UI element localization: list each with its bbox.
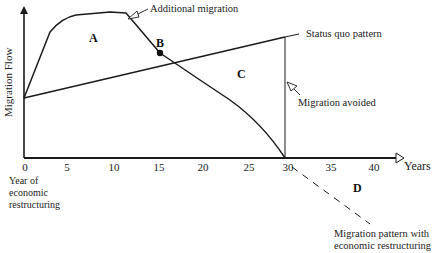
origin-note-line2: economic [9,187,48,199]
origin-note-line1: Year of [9,175,38,187]
x-tick-30: 30 [283,161,294,173]
x-tick-15: 15 [154,161,165,173]
restructuring-pattern-label-line2: economic restructuring [334,240,431,252]
y-axis-label: Migration Flow [2,48,14,117]
x-tick-10: 10 [109,161,120,173]
region-b-label: B [156,36,164,51]
x-tick-40: 40 [369,161,380,173]
additional-migration-label: Additional migration [150,3,238,15]
x-tick-25: 25 [244,161,255,173]
restructuring-curve [24,12,285,158]
status-quo-label: Status quo pattern [306,28,382,40]
x-axis-arrow-icon [396,153,404,163]
additional-migration-arrow-icon [128,11,139,19]
x-tick-35: 35 [326,161,337,173]
status-quo-leader [285,34,299,37]
region-d-label: D [353,181,362,196]
restructuring-pattern-label-line1: Migration pattern with [334,228,429,240]
region-c-label: C [237,67,246,82]
y-axis-arrow-icon [20,6,28,14]
x-axis-label: Years [404,160,431,174]
origin-note-line3: restructuring [9,199,60,211]
migration-avoided-label: Migration avoided [298,97,376,109]
x-tick-0: 0 [22,161,28,173]
region-a-label: A [89,31,98,46]
x-tick-5: 5 [64,161,70,173]
x-tick-20: 20 [198,161,209,173]
migration-avoided-arrow-icon [287,82,297,91]
